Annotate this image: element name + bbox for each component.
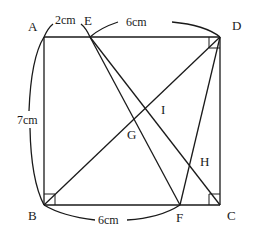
point-label-i: I xyxy=(161,102,165,117)
point-label-b: B xyxy=(28,208,37,223)
point-label-a: A xyxy=(28,19,38,34)
point-label-g: G xyxy=(127,127,136,142)
point-label-d: D xyxy=(232,18,241,33)
dimension-arc-bf-left xyxy=(44,205,95,220)
point-label-f: F xyxy=(176,210,183,225)
dimension-arc-ed-left xyxy=(90,22,118,37)
dimension-arc-ab-top xyxy=(29,37,44,111)
point-label-c: C xyxy=(227,208,236,223)
geometry-diagram: 2cm 6cm 7cm 6cm A E D B C F G I H xyxy=(0,0,257,237)
dimension-arc-ab-bottom xyxy=(30,128,44,205)
dimension-label-ed: 6cm xyxy=(126,15,147,29)
dimension-label-ae: 2cm xyxy=(55,13,76,27)
dimension-arc-bf-right xyxy=(127,205,180,220)
dimension-arc-ae-left xyxy=(44,24,53,37)
segment-bd xyxy=(44,37,220,205)
dimension-label-ab: 7cm xyxy=(17,113,38,127)
dimension-arc-ed-right xyxy=(172,22,220,37)
dimension-label-bf: 6cm xyxy=(98,213,119,227)
point-label-e: E xyxy=(84,13,92,28)
segment-ef xyxy=(90,37,180,205)
point-label-h: H xyxy=(200,154,209,169)
